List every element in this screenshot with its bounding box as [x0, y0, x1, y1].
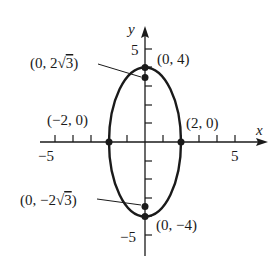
label-focus-top: (0, 2√3) — [30, 55, 78, 72]
point-covertex-left — [106, 139, 113, 146]
point-vertex-bottom — [142, 213, 149, 220]
label-focus-bottom: (0, −2√3) — [20, 192, 77, 209]
tick-label-y-5: 5 — [131, 42, 139, 58]
focus-bottom-leader — [97, 199, 141, 205]
y-axis — [141, 26, 152, 256]
label-vertex-bottom: (0, −4) — [156, 217, 197, 234]
point-covertex-right — [178, 139, 185, 146]
y-axis-label: y — [126, 21, 135, 37]
x-axis — [40, 135, 268, 146]
point-focus-top — [142, 74, 149, 81]
label-vertex-top: (0, 4) — [157, 51, 190, 68]
svg-text:(0, 2√3): (0, 2√3) — [30, 55, 78, 72]
tick-label-x-5: 5 — [231, 148, 239, 164]
svg-text:(0, −2√3): (0, −2√3) — [20, 192, 77, 209]
x-axis-label: x — [255, 122, 263, 138]
tick-label-x-neg5: −5 — [38, 148, 54, 164]
label-covertex-left: (−2, 0) — [47, 112, 88, 129]
tick-label-y-neg5: −5 — [120, 229, 136, 245]
label-covertex-right: (2, 0) — [186, 115, 219, 132]
point-vertex-top — [142, 64, 149, 71]
ellipse-diagram: y x 5 −5 −5 5 (0, 4) (0, 2√3) (−2, 0) (2… — [0, 0, 280, 276]
point-focus-bottom — [142, 203, 149, 210]
